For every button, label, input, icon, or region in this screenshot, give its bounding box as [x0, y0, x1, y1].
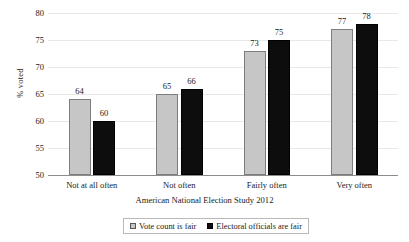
y-tick-label: 75 [6, 36, 44, 45]
bar: 75 [268, 40, 290, 175]
bar-value-label: 60 [100, 109, 109, 118]
category-label: Very often [336, 180, 372, 190]
bar: 66 [181, 89, 203, 175]
legend-label: Electoral officials are fair [216, 222, 302, 231]
legend-swatch-electoral-officials-icon [207, 223, 213, 229]
y-tick-label: 70 [6, 63, 44, 72]
y-tick-label: 50 [6, 171, 44, 180]
plot-area: 6460656673757778 [48, 13, 398, 175]
category-label: Not at all often [66, 180, 117, 190]
chart-legend: Vote count is fairElectoral officials ar… [123, 218, 309, 234]
legend-entry: Electoral officials are fair [207, 222, 302, 231]
x-axis-title: American National Election Study 2012 [0, 195, 409, 206]
bar-value-label: 73 [250, 39, 259, 48]
bar: 77 [331, 29, 353, 175]
legend-label: Vote count is fair [139, 222, 196, 231]
legend-entry: Vote count is fair [130, 222, 196, 231]
category-label: Not often [163, 180, 195, 190]
y-tick-label: 80 [6, 9, 44, 18]
y-tick-label: 65 [6, 90, 44, 99]
bar-value-label: 75 [275, 28, 284, 37]
gridline [48, 13, 398, 14]
y-tick-label: 55 [6, 144, 44, 153]
bar: 60 [93, 121, 115, 175]
bar: 73 [244, 51, 266, 175]
legend-swatch-vote-count-icon [130, 223, 136, 229]
bar: 78 [356, 24, 378, 175]
bar-value-label: 77 [338, 17, 347, 26]
bar-value-label: 66 [187, 77, 196, 86]
bar-value-label: 78 [362, 12, 371, 21]
bar: 65 [156, 94, 178, 175]
bar-value-label: 64 [75, 87, 84, 96]
y-tick-label: 60 [6, 117, 44, 126]
bar: 64 [69, 99, 91, 175]
x-axis-line [48, 175, 398, 176]
bar-value-label: 65 [163, 82, 172, 91]
bar-chart: % voted 50556065707580 6460656673757778 … [0, 0, 409, 242]
category-label: Fairly often [247, 180, 287, 190]
